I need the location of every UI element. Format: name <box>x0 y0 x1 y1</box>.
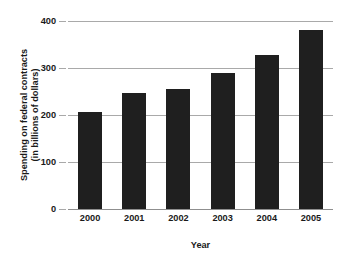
x-axis-title: Year <box>68 240 333 250</box>
bar-slot-2000 <box>68 21 112 209</box>
y-tick-mark-400 <box>59 21 66 22</box>
y-axis-title-line-1: Spending on federal contracts <box>19 49 30 181</box>
x-tick-label-2001: 2001 <box>112 213 156 229</box>
bars-layer <box>68 21 333 209</box>
x-tick-label-2004: 2004 <box>245 213 289 229</box>
x-tick-label-2005: 2005 <box>289 213 333 229</box>
bar-2002 <box>166 89 190 209</box>
y-tick-mark-0 <box>59 209 66 210</box>
bar-2000 <box>78 112 102 209</box>
bar-2003 <box>211 73 235 209</box>
bar-2001 <box>122 93 146 209</box>
bar-slot-2005 <box>289 21 333 209</box>
bar-slot-2001 <box>112 21 156 209</box>
y-tick-mark-300 <box>59 68 66 69</box>
y-tick-label-300: 300 <box>41 63 56 73</box>
bar-2004 <box>255 55 279 209</box>
bar-chart: Spending on federal contracts (in billio… <box>0 0 343 268</box>
bar-slot-2004 <box>245 21 289 209</box>
y-tick-mark-100 <box>59 162 66 163</box>
bar-2005 <box>299 30 323 209</box>
y-axis-title-line-2: (in billions of dollars) <box>30 69 41 162</box>
y-tick-mark-200 <box>59 115 66 116</box>
y-tick-label-400: 400 <box>41 16 56 26</box>
y-tick-label-0: 0 <box>51 204 56 214</box>
x-tick-label-2003: 2003 <box>201 213 245 229</box>
plot-area: 0100200300400 <box>68 21 333 209</box>
y-tick-label-100: 100 <box>41 157 56 167</box>
y-tick-label-200: 200 <box>41 110 56 120</box>
x-axis-tick-labels: 200020012002200320042005 <box>68 213 333 229</box>
gridline-0 <box>68 209 333 210</box>
x-tick-label-2000: 2000 <box>68 213 112 229</box>
bar-slot-2003 <box>201 21 245 209</box>
x-tick-label-2002: 2002 <box>156 213 200 229</box>
bar-slot-2002 <box>156 21 200 209</box>
